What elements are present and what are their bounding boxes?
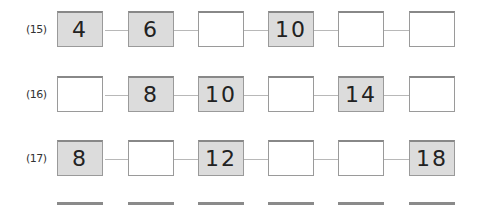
answer-box[interactable] bbox=[338, 11, 384, 47]
given-number-box: 8 bbox=[57, 140, 103, 176]
given-number-box: 12 bbox=[198, 140, 244, 176]
answer-box[interactable] bbox=[338, 140, 384, 176]
answer-box[interactable] bbox=[409, 76, 455, 112]
partial-box bbox=[338, 202, 384, 205]
problem-row: (16)81014 bbox=[0, 76, 486, 116]
answer-box[interactable] bbox=[268, 140, 314, 176]
problem-row: (15)4610 bbox=[0, 11, 486, 51]
given-number-box: 10 bbox=[268, 11, 314, 47]
partial-box bbox=[198, 202, 244, 205]
problem-number: (15) bbox=[26, 23, 47, 36]
given-number-box: 6 bbox=[128, 11, 174, 47]
partial-box bbox=[57, 202, 103, 205]
partial-box bbox=[128, 202, 174, 205]
answer-box[interactable] bbox=[128, 140, 174, 176]
problem-number: (17) bbox=[26, 152, 47, 165]
answer-box[interactable] bbox=[57, 76, 103, 112]
given-number-box: 14 bbox=[338, 76, 384, 112]
given-number-box: 18 bbox=[409, 140, 455, 176]
answer-box[interactable] bbox=[268, 76, 314, 112]
given-number-box: 4 bbox=[57, 11, 103, 47]
given-number-box: 10 bbox=[198, 76, 244, 112]
answer-box[interactable] bbox=[409, 11, 455, 47]
answer-box[interactable] bbox=[198, 11, 244, 47]
given-number-box: 8 bbox=[128, 76, 174, 112]
partial-box bbox=[268, 202, 314, 205]
problem-row: (17)81218 bbox=[0, 140, 486, 180]
partial-box bbox=[409, 202, 455, 205]
problem-number: (16) bbox=[26, 88, 47, 101]
